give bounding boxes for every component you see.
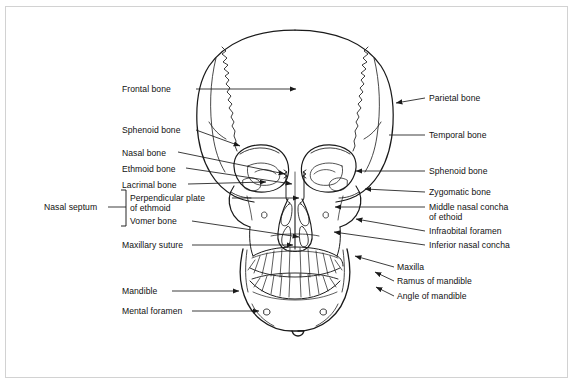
label-temporal-bone: Temporal bone bbox=[429, 130, 487, 140]
label-sphenoid-bone-right: Sphenoid bone bbox=[429, 166, 487, 176]
label-mental-foramen: Mental foramen bbox=[122, 306, 182, 316]
label-maxilla: Maxilla bbox=[397, 262, 424, 272]
label-vomer-bone: Vomer bone bbox=[130, 216, 177, 226]
label-perpendicular-plate: Perpendicular plate of ethmoid bbox=[130, 193, 205, 213]
label-lacrimal-bone: Lacrimal bone bbox=[122, 180, 177, 190]
label-ramus-of-mandible: Ramus of mandible bbox=[397, 276, 472, 286]
label-sphenoid-bone-left: Sphenoid bone bbox=[122, 125, 180, 135]
skull-diagram-figure: Frontal bone Sphenoid bone Nasal bone Et… bbox=[0, 0, 576, 391]
label-zygomatic-bone: Zygomatic bone bbox=[429, 187, 491, 197]
label-middle-nasal-concha: Middle nasal concha of ethoid bbox=[429, 202, 508, 222]
label-ethmoid-bone: Ethmoid bone bbox=[122, 164, 176, 174]
label-parietal-bone: Parietal bone bbox=[429, 93, 480, 103]
label-infraobital-foramen: Infraobital foramen bbox=[429, 226, 502, 236]
label-frontal-bone: Frontal bone bbox=[122, 84, 171, 94]
label-nasal-septum: Nasal septum bbox=[44, 202, 97, 212]
label-maxillary-suture: Maxillary suture bbox=[122, 240, 183, 250]
label-angle-of-mandible: Angle of mandible bbox=[397, 291, 467, 301]
label-mandible: Mandible bbox=[122, 286, 157, 296]
label-nasal-bone: Nasal bone bbox=[122, 148, 166, 158]
label-inferior-nasal-concha: Inferior nasal concha bbox=[429, 240, 510, 250]
